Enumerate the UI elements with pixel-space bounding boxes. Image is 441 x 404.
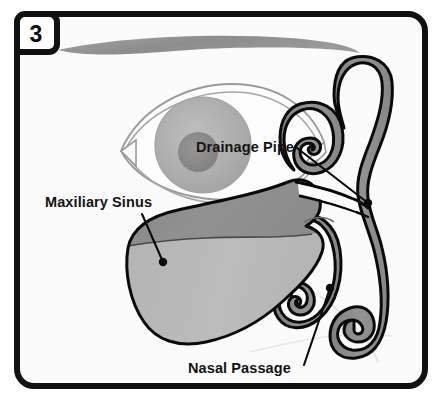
label-maxiliary-sinus: Maxiliary Sinus: [45, 194, 152, 210]
label-drainage-pipe: Drainage Pipe: [196, 139, 294, 155]
leader-dot-nasal-passage: [326, 284, 334, 292]
diagram-content: Drainage Pipe Maxiliary Sinus Nasal Pass…: [17, 14, 425, 386]
label-nasal-passage: Nasal Passage: [188, 360, 291, 376]
panel-number-text: 3: [30, 21, 43, 47]
anatomy-diagram: Drainage Pipe Maxiliary Sinus Nasal Pass…: [0, 0, 441, 404]
panel-number-badge: 3: [17, 14, 57, 52]
leader-dot-maxiliary-sinus: [159, 258, 167, 266]
figure-root: Drainage Pipe Maxiliary Sinus Nasal Pass…: [0, 0, 441, 404]
leader-dot-drainage-pipe: [364, 199, 372, 207]
